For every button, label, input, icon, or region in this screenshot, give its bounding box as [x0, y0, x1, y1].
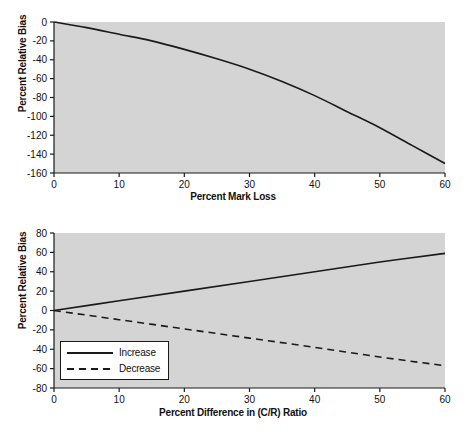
chart-panel-bottom: Percent Relative Bias 806040200-20-40-60… — [0, 215, 466, 433]
svg-text:-20: -20 — [33, 35, 48, 46]
svg-text:-60: -60 — [33, 363, 48, 374]
svg-text:10: 10 — [114, 394, 126, 405]
legend-label-decrease: Decrease — [119, 361, 160, 377]
svg-text:10: 10 — [114, 179, 126, 190]
svg-text:20: 20 — [36, 286, 48, 297]
svg-text:60: 60 — [439, 394, 451, 405]
legend-line-dashed-icon — [67, 368, 113, 370]
svg-text:-20: -20 — [33, 324, 48, 335]
svg-text:-120: -120 — [27, 130, 47, 141]
svg-text:0: 0 — [51, 394, 57, 405]
svg-text:-100: -100 — [27, 111, 47, 122]
svg-text:80: 80 — [36, 228, 48, 239]
x-axis-title-top: Percent Mark Loss — [0, 191, 466, 202]
legend-line-solid-icon — [67, 352, 113, 354]
svg-text:30: 30 — [244, 394, 256, 405]
svg-text:20: 20 — [179, 394, 191, 405]
svg-text:-40: -40 — [33, 344, 48, 355]
svg-text:20: 20 — [179, 179, 191, 190]
legend-item-increase: Increase — [67, 345, 167, 361]
svg-text:30: 30 — [244, 179, 256, 190]
svg-text:0: 0 — [41, 305, 47, 316]
svg-text:-40: -40 — [33, 54, 48, 65]
legend-label-increase: Increase — [119, 345, 156, 361]
svg-text:-60: -60 — [33, 73, 48, 84]
svg-text:40: 40 — [309, 179, 321, 190]
svg-text:-80: -80 — [33, 92, 48, 103]
chart-panel-top: Percent Relative Bias 0-20-40-60-80-100-… — [0, 0, 466, 215]
svg-text:-160: -160 — [27, 168, 47, 179]
x-axis-title-bottom: Percent Difference in (C/R) Ratio — [0, 407, 466, 418]
svg-text:50: 50 — [374, 394, 386, 405]
svg-text:50: 50 — [374, 179, 386, 190]
svg-text:0: 0 — [41, 17, 47, 28]
figure-two-panel-chart: Percent Relative Bias 0-20-40-60-80-100-… — [0, 0, 466, 433]
svg-text:40: 40 — [309, 394, 321, 405]
legend-item-decrease: Decrease — [67, 361, 167, 377]
svg-text:-140: -140 — [27, 149, 47, 160]
svg-text:0: 0 — [51, 179, 57, 190]
chart-legend: Increase Decrease — [60, 341, 169, 380]
svg-text:60: 60 — [36, 247, 48, 258]
plot-area-top: 0-20-40-60-80-100-120-140-16001020304050… — [0, 0, 466, 215]
svg-text:40: 40 — [36, 266, 48, 277]
svg-text:60: 60 — [439, 179, 451, 190]
svg-text:-80: -80 — [33, 383, 48, 394]
plot-area-bottom: 806040200-20-40-60-800102030405060 — [0, 215, 466, 433]
